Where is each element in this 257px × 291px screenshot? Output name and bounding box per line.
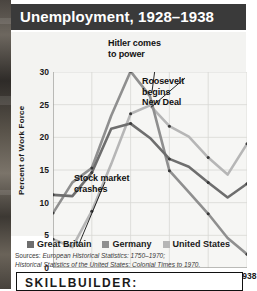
- y-axis-tick: 20: [40, 132, 49, 142]
- data-point: [207, 212, 210, 215]
- data-point: [168, 125, 171, 128]
- sources-line-1: European Historical Statistics: 1750–197…: [42, 252, 165, 259]
- data-point: [207, 181, 210, 184]
- annotation-line: crashes: [74, 184, 129, 195]
- annotation-line: Stock market: [74, 173, 129, 184]
- legend-swatch-icon: [163, 241, 170, 248]
- photo-left-edge: [0, 0, 11, 289]
- chart-legend: Great BritainGermanyUnited States: [11, 238, 246, 250]
- legend-label: United States: [173, 239, 231, 249]
- legend-swatch-icon: [27, 241, 34, 248]
- legend-label: Great Britain: [37, 239, 92, 249]
- annotation-line: to power: [108, 49, 161, 60]
- data-point: [168, 157, 171, 160]
- chart-card: Unemployment, 1928–1938 Percent of Work …: [11, 0, 246, 289]
- y-axis-tick: 30: [40, 67, 49, 77]
- annotation-line: Roosevelt: [142, 76, 184, 87]
- annotation-line: begins: [142, 87, 184, 98]
- legend-item-germany: Germany: [102, 239, 151, 249]
- y-axis-label: Percent of Work Force: [15, 90, 27, 210]
- annotation-hitler: Hitler comesto power: [108, 38, 161, 59]
- data-point: [129, 112, 132, 115]
- skillbuilder-box: SKILLBUILDER:: [16, 272, 243, 291]
- y-axis-tick: 25: [40, 100, 49, 110]
- sources-prefix: Sources:: [15, 252, 42, 259]
- page-title: Unemployment, 1928–1938: [20, 8, 214, 25]
- chart-sources: Sources: European Historical Statistics:…: [15, 252, 243, 269]
- legend-item-great-britain: Great Britain: [27, 239, 92, 249]
- data-point: [207, 156, 210, 159]
- annotation-roosevelt: RooseveltbeginsNew Deal: [142, 76, 184, 108]
- legend-label: Germany: [112, 239, 151, 249]
- legend-swatch-icon: [102, 241, 109, 248]
- skillbuilder-label: SKILLBUILDER:: [25, 276, 138, 290]
- annotation-line: New Deal: [142, 97, 184, 108]
- sources-line-2: Historical Statistics of the United Stat…: [15, 261, 243, 270]
- data-point: [90, 167, 93, 170]
- chart-title-bar: Unemployment, 1928–1938: [11, 4, 246, 30]
- y-axis-tick: 10: [40, 198, 49, 208]
- y-axis-tick: 15: [40, 165, 49, 175]
- legend-item-united-states: United States: [163, 239, 231, 249]
- chart-panel: Percent of Work Force 051015202530192819…: [11, 32, 246, 236]
- annotation-line: Hitler comes: [108, 38, 161, 49]
- annotation-stock-market: Stock marketcrashes: [74, 173, 129, 194]
- data-point: [129, 122, 132, 125]
- data-point: [168, 169, 171, 172]
